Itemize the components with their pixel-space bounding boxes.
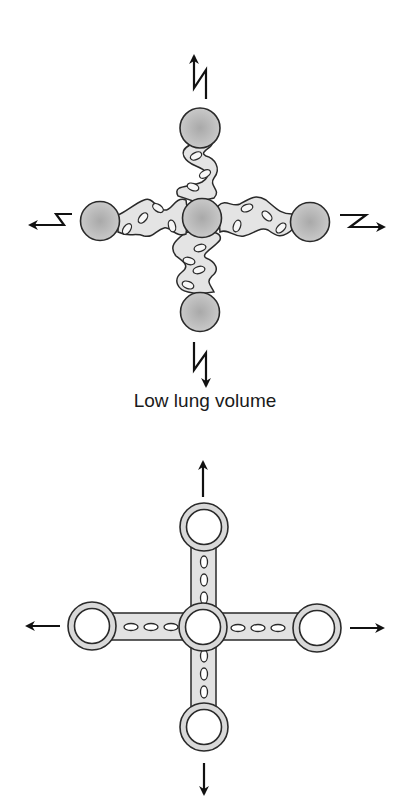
node-left: [81, 202, 120, 241]
ring-center: [179, 603, 227, 651]
ring-nodes: [68, 503, 341, 751]
node-bottom: [181, 293, 220, 332]
node-right: [291, 203, 330, 242]
ring-left: [68, 602, 116, 650]
node-center: [183, 199, 222, 238]
node-top: [180, 108, 220, 148]
filled-nodes: [81, 108, 330, 332]
low-volume-panel: [30, 56, 384, 386]
ring-top: [180, 503, 228, 551]
low-volume-caption: Low lung volume: [0, 390, 410, 412]
zigzag-arrow-up-icon: [194, 56, 206, 99]
ring-right: [293, 604, 341, 652]
high-volume-panel: [27, 462, 383, 794]
zigzag-arrow-right-icon: [340, 215, 384, 227]
ring-bottom: [180, 703, 228, 751]
zigzag-arrow-left-icon: [30, 214, 72, 225]
zigzag-arrow-down-icon: [194, 342, 206, 386]
